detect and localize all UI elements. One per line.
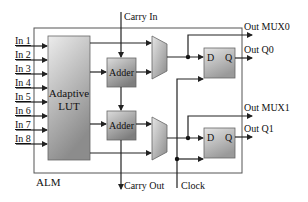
out-q0-label: Out Q0: [244, 44, 274, 55]
carry-in-label: Carry In: [124, 11, 158, 22]
adder-bottom-label: Adder: [109, 120, 135, 131]
lut-label-line2: LUT: [58, 100, 80, 112]
input-label-1: In 1: [15, 35, 31, 46]
input-label-4: In 4: [15, 77, 31, 88]
out-mux1-label: Out MUX1: [244, 102, 290, 113]
input-label-2: In 2: [15, 49, 31, 60]
alm-label: ALM: [36, 176, 61, 188]
mux-top: [152, 36, 167, 79]
input-label-8: In 8: [15, 133, 31, 144]
out-mux0-label: Out MUX0: [244, 21, 290, 32]
ff-top-q: Q: [225, 52, 233, 63]
ff-bottom-q: Q: [225, 132, 233, 143]
clock-label: Clock: [181, 180, 205, 191]
ff-bottom-d: D: [207, 132, 214, 143]
alm-diagram: ALM In 1 In 2 In 3 In 4 In 5 In 6 In 7 I…: [0, 0, 308, 202]
out-q1-label: Out Q1: [244, 123, 274, 134]
lut-label-line1: Adaptive: [49, 87, 89, 99]
input-label-5: In 5: [15, 91, 31, 102]
ff-top-d: D: [207, 52, 214, 63]
mux-bottom: [152, 117, 167, 160]
input-label-7: In 7: [15, 119, 31, 130]
carry-out-label: Carry Out: [124, 180, 164, 191]
adder-top-label: Adder: [109, 67, 135, 78]
input-label-6: In 6: [15, 105, 31, 116]
input-label-3: In 3: [15, 63, 31, 74]
